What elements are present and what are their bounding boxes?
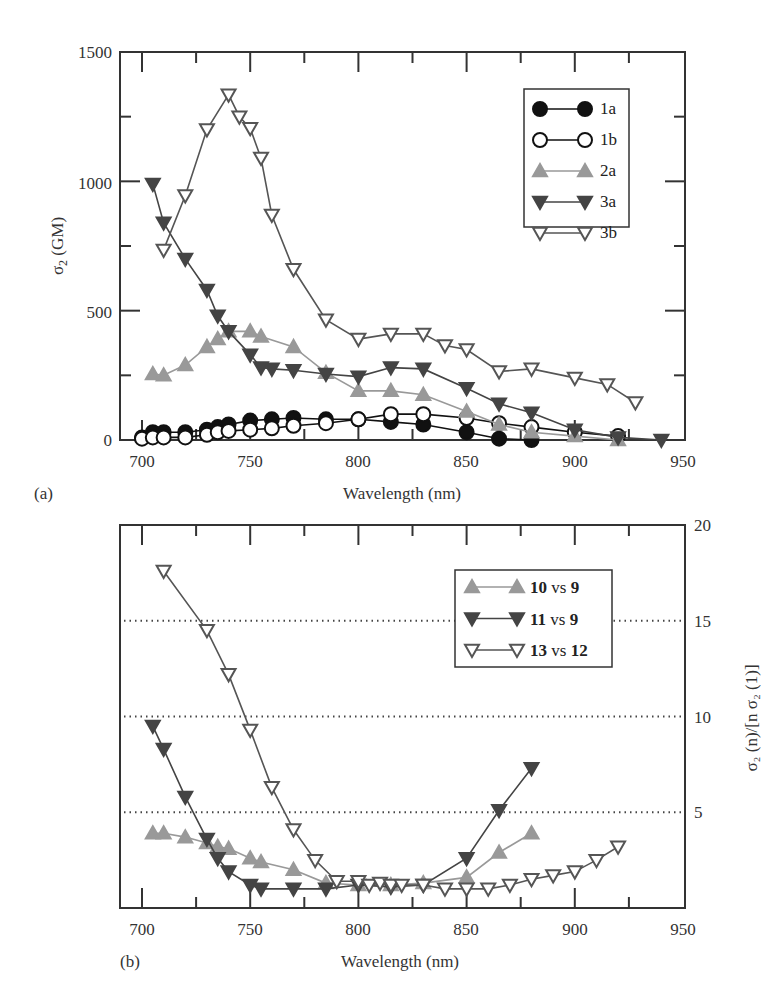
legend-b-num-b-2: 12	[571, 641, 588, 660]
data-point	[416, 329, 430, 341]
data-point	[286, 824, 300, 836]
data-point	[286, 419, 300, 433]
data-point	[351, 412, 365, 426]
a-xtick-850: 850	[453, 452, 479, 471]
data-point	[460, 884, 474, 896]
data-point	[460, 383, 474, 395]
legend-b-num-a-1: 11	[530, 610, 546, 629]
data-point	[254, 153, 268, 165]
a-xtick-700: 700	[129, 452, 155, 471]
a-xaxis-title: Wavelength (nm)	[343, 484, 461, 503]
legend-b-num-a-0: 10	[530, 578, 547, 597]
legend-marker-icon	[533, 133, 547, 147]
legend-b-label-13vs12: 13 vs 12	[530, 641, 588, 660]
data-point	[286, 264, 300, 276]
data-point	[384, 407, 398, 421]
data-point	[600, 379, 614, 391]
legend-a-label-1a: 1a	[600, 99, 617, 118]
b-xaxis-title: Wavelength (nm)	[341, 952, 459, 971]
panel-a-legend: 1a 1b 2a 3a 3b	[524, 89, 629, 242]
b-xtick-700: 700	[129, 920, 155, 939]
data-point	[460, 425, 474, 439]
data-point	[243, 423, 257, 437]
legend-b-label-11vs9: 11 vs 9	[530, 610, 578, 629]
legend-b-vs-1: vs	[550, 610, 565, 629]
data-point	[525, 408, 539, 420]
data-point	[178, 254, 192, 266]
a-xtick-900: 900	[562, 452, 588, 471]
data-point	[178, 190, 192, 202]
data-point	[351, 371, 365, 383]
b-ytick-20: 20	[694, 516, 711, 535]
data-point	[222, 424, 236, 438]
data-point	[492, 432, 506, 446]
panel-a: 1500 1000 500 0 700 750 800 850 900 950 …	[34, 43, 696, 503]
b-ytick-15: 15	[694, 612, 711, 631]
data-point	[492, 366, 506, 378]
data-point	[157, 744, 171, 756]
data-point	[200, 625, 214, 637]
data-point	[351, 384, 365, 396]
legend-b-num-b-1: 9	[570, 610, 579, 629]
data-point	[222, 89, 236, 101]
legend-b-label-10vs9: 10 vs 9	[530, 578, 579, 597]
b-ytick-10: 10	[694, 708, 711, 727]
a-xtick-950: 950	[670, 452, 696, 471]
data-point	[157, 430, 171, 444]
data-point	[243, 851, 257, 863]
data-point	[146, 721, 160, 733]
data-point	[319, 416, 333, 430]
panel-b: 20 15 10 5 700 750 800 850 900 950 Wavel…	[120, 516, 761, 971]
data-point	[416, 407, 430, 421]
legend-b-vs-2: vs	[551, 641, 566, 660]
legend-marker-icon	[578, 133, 592, 147]
b-xtick-900: 900	[562, 920, 588, 939]
data-point	[243, 324, 257, 336]
data-point	[384, 384, 398, 396]
data-point	[265, 421, 279, 435]
a-ytick-1500: 1500	[78, 43, 112, 62]
b-xtick-950: 950	[670, 920, 696, 939]
b-panel-label: (b)	[120, 952, 140, 971]
legend-b-vs-0: vs	[551, 578, 566, 597]
data-point	[178, 792, 192, 804]
data-point	[178, 430, 192, 444]
data-point	[460, 344, 474, 356]
b-xtick-850: 850	[453, 920, 479, 939]
a-ytick-0: 0	[104, 431, 113, 450]
data-point	[492, 805, 506, 817]
data-point	[157, 566, 171, 578]
data-point	[222, 669, 236, 681]
data-point	[319, 314, 333, 326]
a-ylabel-sigma: σ	[48, 266, 67, 275]
legend-marker-icon	[578, 102, 592, 116]
b-ytick-5: 5	[694, 803, 703, 822]
data-point	[492, 845, 506, 857]
data-point	[200, 285, 214, 297]
a-ytick-1000: 1000	[78, 174, 112, 193]
legend-a-label-3b: 3b	[600, 223, 617, 242]
data-point	[265, 210, 279, 222]
data-point	[146, 179, 160, 191]
data-point	[628, 397, 642, 409]
legend-a-label-1b: 1b	[600, 130, 617, 149]
data-point	[243, 123, 257, 135]
data-point	[460, 853, 474, 865]
data-point	[351, 334, 365, 346]
b-xtick-800: 800	[345, 920, 371, 939]
b-xtick-750: 750	[237, 920, 263, 939]
data-point	[200, 124, 214, 136]
data-point	[438, 884, 452, 896]
series-line	[153, 726, 532, 889]
panel-b-legend: 10 vs 9 11 vs 9 13 vs 12	[455, 570, 612, 667]
data-point	[157, 245, 171, 257]
series-11-vs-9	[146, 721, 539, 896]
data-point	[319, 884, 333, 896]
data-point	[286, 884, 300, 896]
legend-a-label-2a: 2a	[600, 161, 617, 180]
figure: 1500 1000 500 0 700 750 800 850 900 950 …	[0, 0, 784, 1007]
legend-a-label-3a: 3a	[600, 192, 617, 211]
legend-marker-icon	[578, 228, 592, 240]
a-xtick-750: 750	[237, 452, 263, 471]
data-point	[265, 782, 279, 794]
